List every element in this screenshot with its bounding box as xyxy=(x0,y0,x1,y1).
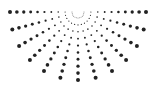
dot xyxy=(36,34,39,37)
dot xyxy=(137,10,141,14)
dot xyxy=(46,63,50,67)
dot xyxy=(129,24,132,27)
dot xyxy=(72,12,73,13)
dot xyxy=(83,13,84,14)
dot xyxy=(23,41,27,45)
dot xyxy=(58,16,60,18)
dot xyxy=(103,18,105,20)
dot xyxy=(8,10,12,14)
dot xyxy=(28,58,32,62)
dot xyxy=(81,17,82,18)
dot xyxy=(94,21,96,23)
dot-sunburst-icon xyxy=(0,0,156,87)
dot xyxy=(81,24,82,25)
dot xyxy=(96,16,98,18)
dot xyxy=(64,56,67,59)
dot xyxy=(77,31,79,33)
dot xyxy=(87,21,88,22)
dot xyxy=(60,40,62,42)
dot xyxy=(10,28,14,32)
dot xyxy=(100,24,102,26)
dot xyxy=(74,24,75,25)
dot xyxy=(77,51,80,54)
dot xyxy=(129,41,133,45)
dot xyxy=(68,21,69,22)
dot xyxy=(63,25,65,27)
dot xyxy=(17,44,21,48)
dot xyxy=(107,63,111,67)
dot xyxy=(70,37,72,39)
dot xyxy=(100,52,103,55)
dot xyxy=(77,44,79,46)
dot xyxy=(56,46,59,49)
dot xyxy=(72,13,73,14)
dot xyxy=(62,63,65,66)
dot xyxy=(142,28,146,32)
dot xyxy=(77,24,78,25)
dot xyxy=(67,28,69,30)
dot xyxy=(90,11,91,12)
dot xyxy=(42,69,46,73)
dot xyxy=(33,53,37,57)
dot xyxy=(24,24,27,27)
dot xyxy=(22,10,25,13)
dot xyxy=(57,11,59,13)
dot xyxy=(76,17,77,18)
dot xyxy=(50,11,52,13)
dot xyxy=(43,11,45,13)
dot xyxy=(64,34,66,36)
dot xyxy=(58,76,62,80)
dot xyxy=(44,20,46,22)
dot xyxy=(76,78,80,82)
dot xyxy=(96,30,98,32)
dot xyxy=(17,26,21,30)
dot xyxy=(76,71,80,75)
dot xyxy=(105,39,108,42)
dot xyxy=(53,52,56,55)
dot xyxy=(104,11,106,13)
dot xyxy=(97,46,100,49)
dot xyxy=(97,11,99,13)
dot xyxy=(117,11,120,14)
dot xyxy=(60,21,62,23)
dot xyxy=(109,20,111,22)
dot xyxy=(123,37,126,40)
dot xyxy=(82,30,84,32)
dot xyxy=(90,34,92,36)
dot xyxy=(79,17,80,18)
dot xyxy=(86,43,88,45)
dot xyxy=(72,30,74,32)
dot xyxy=(42,31,45,34)
dot xyxy=(38,21,41,24)
dot xyxy=(115,49,118,52)
dot xyxy=(112,31,115,34)
dot xyxy=(116,21,119,24)
dot xyxy=(51,18,53,20)
dot xyxy=(92,69,96,73)
dot xyxy=(124,58,128,62)
dot xyxy=(78,18,79,19)
dot xyxy=(54,24,56,26)
dot xyxy=(65,11,66,12)
dot xyxy=(135,26,139,30)
dot xyxy=(38,49,41,52)
dot xyxy=(77,58,80,61)
dot xyxy=(15,10,19,14)
dot xyxy=(124,11,127,14)
dot xyxy=(77,38,79,40)
dot xyxy=(49,57,52,60)
dot xyxy=(68,43,70,45)
dot xyxy=(48,39,51,42)
dot xyxy=(60,69,64,73)
dot xyxy=(76,65,79,68)
dot xyxy=(90,15,91,16)
radial-dot-graphic xyxy=(0,0,156,87)
dot xyxy=(89,18,90,19)
dot xyxy=(91,25,93,27)
dot xyxy=(122,23,125,26)
dot xyxy=(66,18,67,19)
dot xyxy=(84,12,85,13)
dot xyxy=(84,37,86,39)
dot xyxy=(87,28,89,30)
dot xyxy=(43,44,46,47)
